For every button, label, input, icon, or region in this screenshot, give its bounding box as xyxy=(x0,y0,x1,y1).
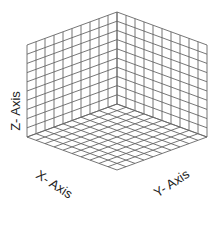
y-axis-label: Y- Axis xyxy=(151,166,193,200)
z-axis-label: Z- Axis xyxy=(8,91,23,131)
grid-planes xyxy=(27,12,207,170)
x-axis-label: X- Axis xyxy=(33,167,76,202)
isometric-axes-diagram: Z- Axis X- Axis Y- Axis xyxy=(0,0,220,230)
